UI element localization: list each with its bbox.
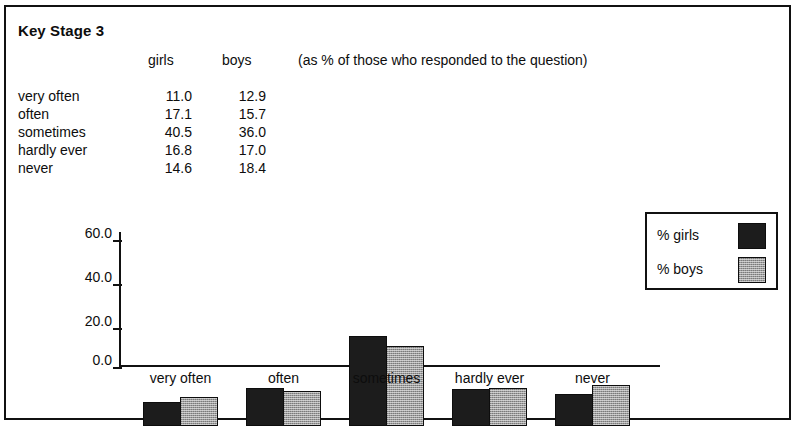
bar-boys-often[interactable]	[283, 391, 321, 426]
y-axis-tick-mark	[113, 240, 122, 242]
x-axis-tick-label: very often	[143, 370, 218, 386]
bar-group	[452, 293, 527, 426]
y-axis-tick-mark	[113, 284, 122, 286]
y-axis-line	[119, 232, 121, 367]
chart-page: Key Stage 3 girls boys (as % of those wh…	[0, 0, 797, 426]
bar-girls-often[interactable]	[246, 388, 284, 426]
bar-boys-sometimes[interactable]	[386, 346, 424, 426]
bar-girls-hardly-ever[interactable]	[452, 389, 490, 426]
bar-boys-very-often[interactable]	[180, 397, 218, 426]
bar-group	[143, 293, 218, 426]
bar-group	[349, 293, 424, 426]
chart-legend: % girls % boys	[645, 212, 778, 290]
legend-swatch-icon	[738, 223, 766, 249]
y-axis-tick-mark	[113, 328, 122, 330]
legend-item-girls[interactable]: % girls	[657, 222, 770, 252]
y-axis-tick-label: 40.0	[46, 269, 112, 285]
legend-item-boys[interactable]: % boys	[657, 256, 770, 286]
y-axis-tick-label: 0.0	[46, 352, 112, 368]
bar-girls-very-often[interactable]	[143, 402, 181, 426]
legend-label: % boys	[657, 261, 703, 277]
legend-swatch-icon	[738, 257, 766, 283]
bar-group	[555, 293, 630, 426]
bar-group	[246, 293, 321, 426]
legend-label: % girls	[657, 227, 699, 243]
bar-boys-hardly-ever[interactable]	[489, 388, 527, 426]
x-axis-tick-label: hardly ever	[452, 370, 527, 386]
x-axis-tick-label: never	[555, 370, 630, 386]
bar-girls-never[interactable]	[555, 394, 593, 426]
y-axis-tick-label: 20.0	[46, 313, 112, 329]
x-axis-tick-label: often	[246, 370, 321, 386]
x-axis-tick-label: sometimes	[349, 370, 424, 386]
bar-boys-never[interactable]	[592, 385, 630, 426]
y-axis-tick-label: 60.0	[46, 225, 112, 241]
y-axis-tick-mark	[113, 367, 122, 369]
bar-chart: 60.0 40.0 20.0 0.0 very often often	[0, 0, 797, 426]
